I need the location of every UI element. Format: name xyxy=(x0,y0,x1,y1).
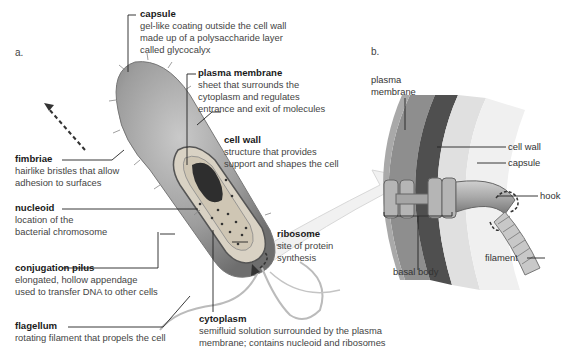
label-nucleoid: nucleoid location of the bacterial chrom… xyxy=(15,202,107,238)
label-b-plasma-membrane: plasma membrane xyxy=(371,74,416,98)
label-title: capsule xyxy=(140,8,286,20)
label-b-basal-body: basal body xyxy=(393,266,438,278)
label-b-filament: filament xyxy=(485,252,518,264)
dashed-arrow-motion xyxy=(48,108,85,150)
label-desc: semifluid solution surrounded by the pla… xyxy=(199,325,386,337)
label-desc: adhesion to surfaces xyxy=(15,177,119,189)
label-capsule: capsule gel-like coating outside the cel… xyxy=(140,8,286,56)
label-flagellum: flagellum rotating filament that propels… xyxy=(15,320,166,344)
label-desc: used to transfer DNA to other cells xyxy=(15,286,158,298)
label-conjugation-pilus: conjugation pilus elongated, hollow appe… xyxy=(15,262,158,298)
label-title: nucleoid xyxy=(15,202,107,214)
label-desc: rotating filament that propels the cell xyxy=(15,332,166,344)
label-desc: bacterial chromosome xyxy=(15,226,107,238)
label-title: ribosome xyxy=(277,228,333,240)
label-desc: synthesis xyxy=(277,252,333,264)
label-fimbriae: fimbriae hairlike bristles that allow ad… xyxy=(15,153,119,189)
label-text: plasma xyxy=(371,74,416,86)
label-cell-wall: cell wall structure that provides suppor… xyxy=(224,134,339,170)
label-title: cytoplasm xyxy=(199,313,386,325)
label-cytoplasm: cytoplasm semifluid solution surrounded … xyxy=(199,313,386,349)
label-desc: location of the xyxy=(15,214,107,226)
label-plasma-membrane: plasma membrane sheet that surrounds the… xyxy=(198,67,325,115)
label-b-hook: hook xyxy=(540,190,560,202)
label-title: fimbriae xyxy=(15,153,119,165)
label-desc: membrane; contains nucleoid and ribosome… xyxy=(199,337,386,349)
label-desc: entrance and exit of molecules xyxy=(198,103,325,115)
label-desc: support and shapes the cell xyxy=(224,158,339,170)
label-desc: site of protein xyxy=(277,240,333,252)
label-b-cell-wall: cell wall xyxy=(508,141,541,153)
label-title: plasma membrane xyxy=(198,67,325,79)
label-b-capsule: capsule xyxy=(508,157,540,169)
label-ribosome: ribosome site of protein synthesis xyxy=(277,228,333,264)
label-title: flagellum xyxy=(15,320,166,332)
label-desc: cytoplasm and regulates xyxy=(198,91,325,103)
label-desc: structure that provides xyxy=(224,146,339,158)
label-desc: called glycocalyx xyxy=(140,44,286,56)
label-desc: sheet that surrounds the xyxy=(198,79,325,91)
label-desc: made up of a polysaccharide layer xyxy=(140,32,286,44)
label-text: membrane xyxy=(371,86,416,98)
label-desc: elongated, hollow appendage xyxy=(15,274,158,286)
label-desc: gel-like coating outside the cell wall xyxy=(140,20,286,32)
panel-label-a: a. xyxy=(15,47,23,58)
panel-label-b: b. xyxy=(371,46,379,57)
label-title: conjugation pilus xyxy=(15,262,158,274)
conjugation-pilus xyxy=(262,262,323,319)
label-desc: hairlike bristles that allow xyxy=(15,165,119,177)
label-title: cell wall xyxy=(224,134,339,146)
